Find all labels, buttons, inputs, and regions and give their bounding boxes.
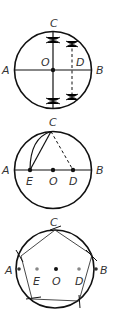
step-3: C A B E O D: [4, 216, 108, 308]
center-point-o: [51, 168, 55, 172]
label-a: A: [1, 64, 10, 77]
label-o: O: [41, 56, 50, 69]
point-b: [94, 267, 98, 271]
step-1: C A B O D: [1, 17, 104, 109]
label-b: B: [96, 64, 104, 77]
label-o: O: [49, 175, 58, 188]
label-e: E: [26, 175, 33, 188]
label-d: D: [69, 175, 77, 188]
pentagon-construction-diagram: C A B O D C A B E O D: [0, 0, 113, 323]
label-b: B: [100, 264, 108, 277]
line-cd-dashed: [51, 132, 73, 171]
point-a: [17, 267, 21, 271]
center-point-o: [54, 267, 58, 271]
step-2: C A B E O D: [1, 116, 104, 209]
center-point-o: [51, 68, 55, 72]
vertex-arc-marks: [16, 226, 97, 308]
point-d: [77, 267, 81, 271]
label-a: A: [1, 164, 10, 177]
label-o: O: [52, 275, 61, 288]
point-e: [35, 267, 39, 271]
label-a: A: [4, 264, 13, 277]
label-c: C: [50, 216, 58, 229]
label-d: D: [75, 275, 83, 288]
label-b: B: [96, 164, 104, 177]
label-c: C: [50, 17, 58, 30]
label-d: D: [76, 56, 84, 69]
label-c: C: [49, 116, 57, 129]
label-e: E: [33, 275, 40, 288]
